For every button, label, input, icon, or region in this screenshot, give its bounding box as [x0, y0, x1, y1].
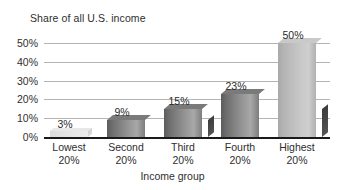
xlabel-second-line2: 20%	[96, 154, 156, 167]
bar-highest[interactable]	[278, 43, 316, 137]
ytick-label-10: 10%	[17, 113, 38, 124]
xlabel-lowest-line1: Lowest	[52, 141, 85, 153]
ytick-label-30: 30%	[17, 75, 38, 86]
ytick-label-0: 0%	[23, 132, 38, 143]
bar-second[interactable]	[107, 120, 145, 137]
xlabel-highest-line1: Highest	[279, 141, 315, 153]
bar-side-face-lowest	[88, 128, 92, 137]
bar-side-face-third	[322, 104, 328, 137]
bar-lowest[interactable]	[50, 131, 88, 137]
xlabel-highest-line2: 20%	[267, 154, 327, 167]
ytick-label-20: 20%	[17, 94, 38, 105]
x-axis-labels: Lowest 20% Second 20% Third 20% Fourth 2…	[44, 141, 330, 173]
bar-group-third[interactable]	[164, 43, 202, 137]
value-label-second: 9%	[101, 107, 143, 118]
bar-third[interactable]	[164, 109, 202, 137]
axis-baseline	[44, 137, 330, 139]
plot-area: 50% 40% 30% 20% 10% 0%	[44, 43, 330, 137]
ytick-label-50: 50%	[17, 38, 38, 49]
xlabel-second-line1: Second	[108, 141, 144, 153]
value-label-fourth: 23%	[215, 81, 257, 92]
xlabel-highest: Highest 20%	[267, 141, 327, 167]
xlabel-lowest-line2: 20%	[39, 154, 99, 167]
value-label-lowest: 3%	[44, 119, 86, 130]
xlabel-fourth-line1: Fourth	[225, 141, 255, 153]
ytick-label-40: 40%	[17, 56, 38, 67]
xlabel-lowest: Lowest 20%	[39, 141, 99, 167]
xlabel-second: Second 20%	[96, 141, 156, 167]
xlabel-fourth-line2: 20%	[210, 154, 270, 167]
xlabel-third: Third 20%	[153, 141, 213, 167]
xlabel-third-line1: Third	[171, 141, 195, 153]
chart-title: Share of all U.S. income	[30, 12, 146, 24]
value-label-highest: 50%	[272, 30, 314, 41]
bar-fourth[interactable]	[221, 94, 259, 137]
bar-chart: Share of all U.S. income 50% 40% 30% 20%…	[0, 0, 345, 190]
bar-group-second[interactable]	[107, 43, 145, 137]
bar-series	[44, 43, 330, 137]
value-label-third: 15%	[158, 96, 200, 107]
xlabel-fourth: Fourth 20%	[210, 141, 270, 167]
bar-group-highest[interactable]	[278, 43, 316, 137]
x-axis-title: Income group	[0, 170, 345, 182]
xlabel-third-line2: 20%	[153, 154, 213, 167]
bar-side-face-second	[208, 115, 214, 137]
